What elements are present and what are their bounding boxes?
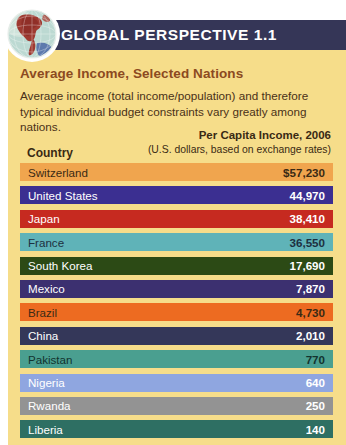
column-header-income: Per Capita Income, 2006 (U.S. dollars, b… xyxy=(148,128,331,157)
banner-title: GLOBAL PERSPECTIVE 1.1 xyxy=(61,26,277,44)
bar-value-label: 2,010 xyxy=(296,329,325,342)
bar-value-label: 250 xyxy=(306,399,325,412)
globe-icon xyxy=(4,6,60,62)
bar-row: Japan38,410 xyxy=(20,210,333,228)
bar-row: China2,010 xyxy=(20,327,333,345)
bar-country-label: Mexico xyxy=(28,282,296,295)
bar-country-label: Pakistan xyxy=(28,353,306,366)
bar-country-label: Nigeria xyxy=(28,376,306,389)
bar-value-label: 38,410 xyxy=(290,212,325,225)
table-column-headers: Country Per Capita Income, 2006 (U.S. do… xyxy=(20,128,333,162)
bar-row: Nigeria640 xyxy=(20,374,333,392)
bar-row: Brazil4,730 xyxy=(20,303,333,321)
bar-country-label: China xyxy=(28,329,296,342)
bar-value-label: 640 xyxy=(306,376,325,389)
bar-value-label: $57,230 xyxy=(283,166,325,179)
figure-banner: GLOBAL PERSPECTIVE 1.1 xyxy=(33,20,346,50)
global-perspective-figure: GLOBAL PERSPECTIVE 1.1 xyxy=(0,0,346,445)
bar-row: Pakistan770 xyxy=(20,350,333,368)
column-header-country: Country xyxy=(27,146,73,160)
bar-country-label: United States xyxy=(28,189,290,202)
bar-value-label: 770 xyxy=(306,353,325,366)
bar-row: United States44,970 xyxy=(20,186,333,204)
bar-row: Switzerland$57,230 xyxy=(20,163,333,181)
bar-value-label: 140 xyxy=(306,423,325,436)
bar-country-label: Brazil xyxy=(28,306,296,319)
bar-country-label: France xyxy=(28,236,290,249)
bar-country-label: Rwanda xyxy=(28,399,306,412)
column-header-income-title: Per Capita Income, 2006 xyxy=(148,128,331,143)
bar-country-label: South Korea xyxy=(28,259,290,272)
bar-row: France36,550 xyxy=(20,233,333,251)
bar-value-label: 4,730 xyxy=(296,306,325,319)
bar-value-label: 17,690 xyxy=(290,259,325,272)
bar-country-label: Switzerland xyxy=(28,166,283,179)
income-bar-list: Switzerland$57,230United States44,970Jap… xyxy=(20,163,333,444)
bar-value-label: 44,970 xyxy=(290,189,325,202)
bar-row: Liberia140 xyxy=(20,420,333,438)
bar-row: Mexico7,870 xyxy=(20,280,333,298)
bar-value-label: 7,870 xyxy=(296,282,325,295)
bar-row: Rwanda250 xyxy=(20,397,333,415)
bar-country-label: Liberia xyxy=(28,423,306,436)
bar-row: South Korea17,690 xyxy=(20,257,333,275)
bar-country-label: Japan xyxy=(28,212,290,225)
bar-value-label: 36,550 xyxy=(290,236,325,249)
column-header-income-note: (U.S. dollars, based on exchange rates) xyxy=(148,143,331,157)
figure-subtitle: Average Income, Selected Nations xyxy=(20,66,330,81)
